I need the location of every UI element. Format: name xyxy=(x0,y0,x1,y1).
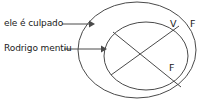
outer-ellipse xyxy=(78,2,196,98)
label-truth-value-v: V xyxy=(170,19,177,29)
chord-line-1 xyxy=(113,32,181,87)
inner-ellipse xyxy=(104,22,188,90)
label-truth-value-f-top: F xyxy=(190,19,195,29)
label-outer-proposition: ele é culpado xyxy=(4,19,63,28)
label-inner-proposition: Rodrigo mentiu xyxy=(4,44,72,53)
arrow-to-outer-head xyxy=(89,21,95,28)
diagram-canvas: ele é culpado Rodrigo mentiu V F F xyxy=(0,0,202,104)
label-truth-value-f-bottom: F xyxy=(169,63,174,73)
